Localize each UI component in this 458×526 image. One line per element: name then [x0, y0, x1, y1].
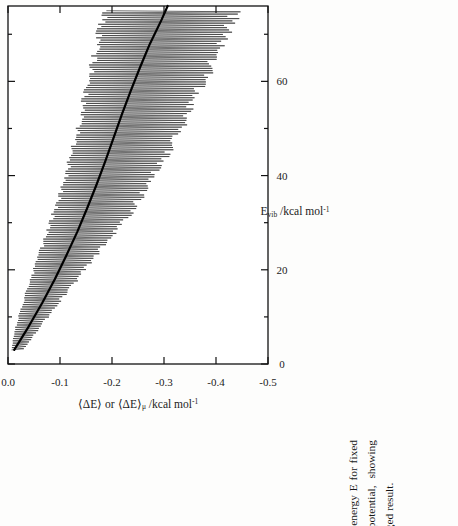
y-axis-title-sup: -1 — [192, 397, 198, 406]
y-axis-title-a: ⟨ΔE⟩ or ⟨ΔE⟩ — [78, 398, 142, 410]
x-axis-title-sup: -1 — [323, 205, 329, 214]
figure-plot-area: 0204060 0.0-0.1-0.2-0.3-0.4-0.5 Evib /kc… — [0, 0, 360, 526]
x-axis-title-sub: vib — [268, 210, 278, 219]
x-axis-title: Evib /kcal mol-1 — [261, 205, 330, 219]
y-tick-label: -0.1 — [51, 376, 68, 388]
scanned-page: 0204060 0.0-0.1-0.2-0.3-0.4-0.5 Evib /kc… — [0, 0, 458, 526]
x-tick-label: 60 — [277, 75, 288, 87]
y-tick-label: -0.4 — [207, 376, 224, 388]
plot-rotation-wrapper: 0204060 0.0-0.1-0.2-0.3-0.4-0.5 Evib /kc… — [0, 0, 312, 426]
x-axis-title-tail: /kcal mol — [277, 205, 323, 217]
x-tick-label: 0 — [279, 358, 285, 370]
y-axis-title: ⟨ΔE⟩ or ⟨ΔE⟩μ /kcal mol-1 — [78, 397, 198, 412]
figure-caption-block: Figure 2. ⟨ΔE⟩ (thin curve) and ⟨ΔE⟩μ (t… — [346, 440, 458, 526]
y-tick-label: -0.5 — [259, 376, 276, 388]
caption-segment-3: = 0.63 kcal/mol for the CM potential, sh… — [365, 440, 395, 526]
plot-canvas: 0204060 0.0-0.1-0.2-0.3-0.4-0.5 Evib /kc… — [0, 0, 312, 426]
y-tick-label: 0.0 — [1, 376, 15, 388]
x-tick-label: 20 — [277, 264, 288, 276]
y-tick-label: -0.3 — [155, 376, 172, 388]
x-axis-title-main: E — [261, 205, 268, 217]
y-tick-label: -0.2 — [103, 376, 120, 388]
figure-caption-text: ⟨ΔE⟩ (thin curve) and ⟨ΔE⟩μ (thick curve… — [346, 440, 397, 526]
x-tick-label: 40 — [277, 170, 288, 182]
y-axis-title-tail: /kcal mol — [146, 398, 192, 410]
